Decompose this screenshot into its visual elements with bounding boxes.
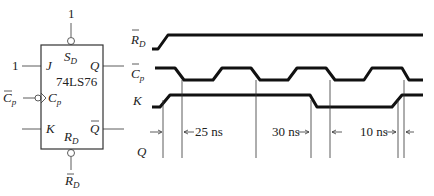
clock-edge-triangle-icon [41,93,46,103]
delay-annotation-25ns: 25 ns [150,124,223,139]
waveform-k [152,95,423,107]
qbar-label: Q [90,121,100,136]
delay-annotation-10ns: 10 ns [360,124,414,139]
timing-diagram: RD Cp K Q 25 ns [130,30,423,159]
sd-inversion-bubble [68,38,75,45]
rd-inversion-bubble [68,150,75,157]
delay-label-10ns: 10 ns [360,124,388,139]
reference-lines [163,80,404,158]
k-label: K [45,121,56,136]
cp-label: Cp [48,90,62,107]
jk-flip-flop-symbol: 1 SD 1 J Q 74LS76 Cp Cp K Q RD RD [3,6,124,190]
sd-label: SD [64,49,78,66]
svg-text:RD: RD [130,32,146,49]
signal-label-q: Q [137,144,147,159]
signal-label-k: K [132,93,143,108]
delay-label-25ns: 25 ns [195,124,223,139]
delay-label-30ns: 30 ns [272,124,300,139]
signal-label-cp-bar: Cp [131,64,145,83]
chip-part-number: 74LS76 [56,74,98,89]
q-label: Q [90,58,100,73]
waveform-cp-bar [155,68,423,80]
cp-inversion-bubble [35,95,41,101]
rd-input-label: RD [64,173,80,190]
j-tie-value: 1 [12,58,19,73]
waveform-rd-bar [152,35,423,49]
j-label: J [46,58,53,73]
svg-text:Cp: Cp [131,66,145,83]
signal-label-rd-bar: RD [130,30,146,49]
cp-input-label: Cp [3,90,17,107]
rd-label: RD [63,129,79,146]
sd-tie-value: 1 [68,6,75,21]
delay-annotation-30ns: 30 ns [272,124,342,139]
flip-flop-timing-diagram: 1 SD 1 J Q 74LS76 Cp Cp K Q RD RD [0,0,434,196]
